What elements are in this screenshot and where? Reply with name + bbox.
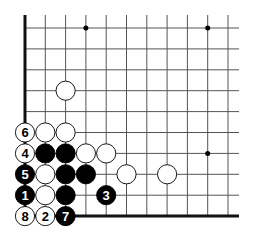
move-number-label: 4 bbox=[21, 146, 29, 161]
white-stone bbox=[97, 144, 116, 163]
black-stone: 3 bbox=[97, 186, 116, 205]
white-stone bbox=[56, 81, 75, 100]
black-stone: 5 bbox=[15, 165, 34, 184]
move-number-label: 3 bbox=[103, 188, 110, 203]
grid-lines bbox=[25, 15, 239, 216]
star-point-icon bbox=[205, 26, 210, 31]
white-stone bbox=[36, 186, 55, 205]
black-stone bbox=[56, 165, 75, 184]
white-stone bbox=[117, 165, 136, 184]
white-stone bbox=[36, 165, 55, 184]
white-stone bbox=[56, 123, 75, 142]
white-stone bbox=[158, 165, 177, 184]
white-stone: 2 bbox=[36, 207, 55, 226]
star-point-icon bbox=[205, 151, 210, 156]
white-stone: 4 bbox=[15, 144, 34, 163]
black-stone: 1 bbox=[15, 186, 34, 205]
move-number-label: 6 bbox=[21, 125, 28, 140]
go-board: 64513827 bbox=[0, 0, 253, 242]
move-number-label: 2 bbox=[42, 209, 49, 224]
white-stone: 8 bbox=[15, 207, 34, 226]
move-number-label: 1 bbox=[21, 188, 28, 203]
black-stone bbox=[76, 165, 95, 184]
black-stone: 7 bbox=[56, 207, 75, 226]
black-stone bbox=[56, 144, 75, 163]
black-stone bbox=[36, 144, 55, 163]
white-stone bbox=[36, 123, 55, 142]
white-stone: 6 bbox=[15, 123, 34, 142]
star-point-icon bbox=[83, 26, 88, 31]
move-number-label: 5 bbox=[21, 167, 28, 182]
white-stone bbox=[76, 144, 95, 163]
move-number-label: 7 bbox=[62, 209, 69, 224]
black-stone bbox=[56, 186, 75, 205]
move-number-label: 8 bbox=[21, 209, 28, 224]
